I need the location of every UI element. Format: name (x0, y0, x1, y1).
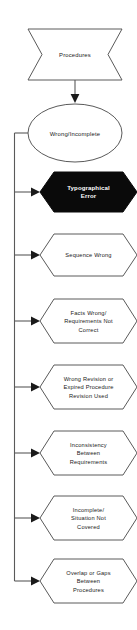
node-sequence-wrong-line-1: Sequence Wrong (65, 252, 111, 258)
arrow-right-icon (31, 317, 40, 326)
node-wrong-revision-line-3: Revision Used (69, 393, 108, 399)
node-incomplete-situation-line-2: Situation Not (71, 515, 106, 521)
node-overlap-gaps[interactable]: Overlap or Gaps Between Procedures (40, 559, 137, 603)
branch-overlap-gaps (15, 577, 41, 586)
flowchart-canvas: Procedures Wrong/Incomplete Typographica… (0, 0, 137, 630)
node-procedures[interactable]: Procedures (28, 29, 122, 80)
node-inconsistency-line-2: Between (77, 450, 100, 456)
branch-typographical-error (15, 188, 41, 197)
branch-sequence-wrong (15, 251, 41, 260)
node-typographical-error[interactable]: Typographical Error (40, 172, 137, 212)
node-facts-wrong-line-3: Correct (79, 327, 99, 333)
node-inconsistency-line-3: Requirements (70, 459, 108, 465)
arrow-right-icon (31, 188, 40, 197)
flowchart-svg: Procedures Wrong/Incomplete Typographica… (0, 0, 137, 630)
node-wrong-revision[interactable]: Wrong Revision or Expired Procedure Revi… (40, 365, 137, 409)
node-inconsistency[interactable]: Inconsistency Between Requirements (40, 431, 137, 475)
node-procedures-label: Procedures (59, 52, 91, 58)
node-typographical-error-line-2: Error (81, 192, 97, 199)
node-overlap-gaps-line-3: Procedures (73, 587, 104, 593)
node-overlap-gaps-line-2: Between (77, 578, 100, 584)
arrow-right-icon (31, 514, 40, 523)
branch-inconsistency (15, 449, 41, 458)
branch-wrong-revision (15, 383, 41, 392)
arrow-right-icon (31, 449, 40, 458)
node-facts-wrong-line-2: Requirements Not (64, 318, 113, 324)
node-incomplete-situation-line-1: Incomplete/ (73, 507, 105, 513)
connector-procedures-to-decision (71, 80, 80, 103)
node-overlap-gaps-line-1: Overlap or Gaps (66, 570, 110, 576)
node-wrong-revision-line-2: Expired Procedure (63, 384, 113, 390)
node-typographical-error-line-1: Typographical (67, 184, 110, 191)
arrow-right-icon (31, 251, 40, 260)
node-facts-wrong[interactable]: Facts Wrong/ Requirements Not Correct (40, 299, 137, 343)
trunk-connector (15, 133, 29, 581)
node-sequence-wrong[interactable]: Sequence Wrong (40, 234, 137, 276)
node-incomplete-situation[interactable]: Incomplete/ Situation Not Covered (40, 496, 137, 540)
node-facts-wrong-line-1: Facts Wrong/ (71, 310, 107, 316)
arrow-right-icon (31, 383, 40, 392)
node-wrong-incomplete[interactable]: Wrong/Incomplete (28, 104, 122, 162)
branch-incomplete-situation (15, 514, 41, 523)
node-incomplete-situation-line-3: Covered (77, 524, 100, 530)
arrow-down-icon (71, 94, 80, 103)
node-inconsistency-line-1: Inconsistency (70, 442, 107, 448)
node-wrong-incomplete-label: Wrong/Incomplete (50, 131, 101, 137)
arrow-right-icon (31, 577, 40, 586)
node-wrong-revision-line-1: Wrong Revision or (64, 376, 114, 382)
branch-facts-wrong (15, 317, 41, 326)
